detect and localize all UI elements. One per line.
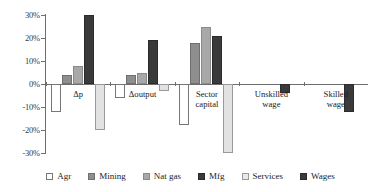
legend-label: Mfg <box>209 172 225 181</box>
bar-mining <box>126 75 136 84</box>
chart-legend: AgrMiningNat gasMfgServicesWages <box>0 168 381 184</box>
bar-natgas <box>201 27 211 85</box>
bar-mfg <box>212 36 222 84</box>
x-tick <box>304 82 305 86</box>
x-tick <box>46 82 47 86</box>
legend-label: Agr <box>57 172 71 181</box>
y-tick-label: 30% <box>0 11 40 20</box>
legend-item[interactable]: Services <box>242 172 284 181</box>
legend-label: Nat gas <box>154 172 181 181</box>
category-label: Sector capital <box>175 89 239 109</box>
y-tick <box>41 153 46 154</box>
category-label: Skilled wage <box>304 89 368 109</box>
legend-swatch-natgas-icon <box>143 173 150 180</box>
bar-natgas <box>137 73 147 85</box>
legend-swatch-mining-icon <box>88 173 95 180</box>
bar-mining <box>62 75 72 84</box>
bar-mining <box>190 43 200 84</box>
legend-swatch-services-icon <box>242 173 249 180</box>
legend-swatch-mfg-icon <box>198 173 205 180</box>
y-tick-label: -10% <box>0 103 40 112</box>
bar-chart: 30%20%10%0%-10%-20%-30% ΔpΔoutputSector … <box>0 0 381 192</box>
bar-group <box>46 15 110 153</box>
legend-label: Services <box>253 172 284 181</box>
y-tick-label: -30% <box>0 149 40 158</box>
legend-item[interactable]: Wages <box>300 172 335 181</box>
bar-mfg <box>84 15 94 84</box>
y-tick-label: 0% <box>0 80 40 89</box>
bar-group <box>239 15 303 153</box>
legend-item[interactable]: Mfg <box>198 172 225 181</box>
category-label: Unskilled wage <box>239 89 303 109</box>
x-tick <box>175 82 176 86</box>
legend-item[interactable]: Nat gas <box>143 172 181 181</box>
bar-group <box>110 15 174 153</box>
x-tick <box>239 82 240 86</box>
legend-item[interactable]: Mining <box>88 172 126 181</box>
x-tick <box>110 82 111 86</box>
legend-label: Wages <box>311 172 335 181</box>
y-tick-label: -20% <box>0 126 40 135</box>
bar-group <box>175 15 239 153</box>
category-label: Δoutput <box>110 89 174 99</box>
y-tick-label: 10% <box>0 57 40 66</box>
legend-swatch-wages-icon <box>300 173 307 180</box>
y-tick-label: 20% <box>0 34 40 43</box>
legend-item[interactable]: Agr <box>46 172 71 181</box>
legend-label: Mining <box>99 172 126 181</box>
bar-mfg <box>148 40 158 84</box>
bar-group <box>304 15 368 153</box>
plot-area <box>46 15 368 153</box>
bar-natgas <box>73 66 83 84</box>
category-label: Δp <box>46 89 110 99</box>
legend-swatch-agr-icon <box>46 173 53 180</box>
